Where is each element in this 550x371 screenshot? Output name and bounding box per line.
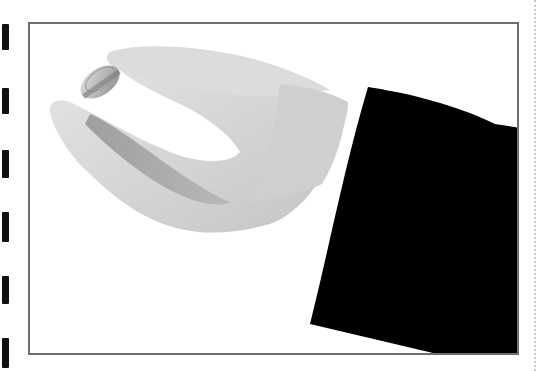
edge-mark	[2, 276, 9, 304]
photo-frame	[28, 22, 519, 355]
edge-mark	[2, 88, 9, 114]
binding-edge-marks	[0, 0, 14, 371]
edge-mark	[2, 24, 9, 50]
right-guide-line	[534, 0, 536, 371]
page: Black-and-white photo of a hand holding …	[0, 0, 550, 371]
edge-mark	[2, 338, 9, 368]
hand-holding-coin-photo	[30, 24, 519, 355]
edge-mark	[2, 150, 9, 178]
edge-mark	[2, 212, 9, 242]
